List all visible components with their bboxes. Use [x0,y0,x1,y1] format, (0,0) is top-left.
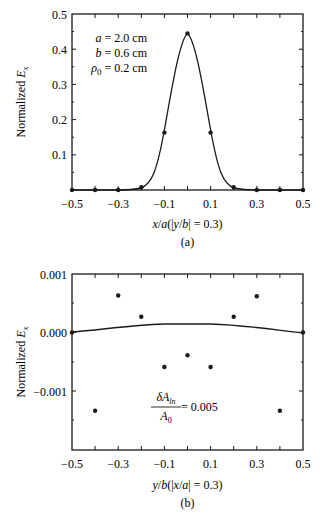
curve-b [72,324,303,333]
y-axis-title-a: Normalized Ex [14,67,30,138]
plot-frame-b [72,274,303,450]
y-tick-label: 0.4 [52,43,67,57]
x-tick-label: −0.3 [107,197,129,211]
x-tick-label: 0.1 [203,197,218,211]
svg-text:ρ0 = 0.2 cm: ρ0 = 0.2 cm [90,61,147,77]
x-tick-labels-a: −0.5 −0.3 −0.1 0.1 0.3 0.5 [61,197,310,211]
x-tick-label: −0.5 [61,197,83,211]
chart-a: 0.1 0.2 0.3 0.4 0.5 −0.5 −0.3 −0.1 0.1 0… [14,8,311,249]
parameter-annotation-a: a = 2.0 cm b = 0.6 cm ρ0 = 0.2 cm [90,31,147,77]
x-tick-label: −0.1 [154,197,176,211]
chart-b: 0.001 0.000 −0.001 −0.5 −0.3 −0.1 0.1 0.… [14,268,311,510]
y-tick-label: 0.1 [52,148,67,162]
y-tick-labels-a: 0.1 0.2 0.3 0.4 0.5 [52,8,67,162]
x-tick-label: −0.5 [61,457,83,471]
x-tick-label: 0.3 [249,457,264,471]
y-tick-label: 0.000 [40,326,67,340]
x-tick-label: 0.5 [296,197,311,211]
ratio-annotation-b: δAln A0 = 0.005 [151,390,218,425]
svg-text:a = 2.0 cm: a = 2.0 cm [96,31,148,45]
svg-text:= 0.005: = 0.005 [181,400,218,414]
x-axis-title-a: x/a(|y/b| = 0.3) [152,217,223,231]
x-tick-label: 0.5 [296,457,311,471]
x-tick-labels-b: −0.5 −0.3 −0.1 0.1 0.3 0.5 [61,457,310,471]
y-tick-label: 0.3 [52,78,67,92]
panel-label-b: (b) [181,496,195,510]
y-tick-label: −0.001 [33,385,67,399]
panel-label-a: (a) [181,235,194,249]
y-axis-title-b: Normalized Ex [14,327,30,398]
x-tick-label: −0.3 [107,457,129,471]
y-tick-labels-b: 0.001 0.000 −0.001 [33,268,67,399]
x-tick-label: 0.1 [203,457,218,471]
svg-text:δAln: δAln [156,390,175,406]
points-b [70,293,305,413]
y-tick-label: 0.001 [40,268,67,282]
y-tick-label: 0.5 [52,8,67,22]
x-ticks-b [95,274,280,450]
y-tick-label: 0.2 [52,113,67,127]
x-tick-label: 0.3 [249,197,264,211]
svg-text:b = 0.6 cm: b = 0.6 cm [96,46,148,60]
svg-text:A0: A0 [159,409,171,425]
x-axis-title-b: y/b(|x/a| = 0.3) [152,478,223,492]
figure: 0.1 0.2 0.3 0.4 0.5 −0.5 −0.3 −0.1 0.1 0… [0,0,320,521]
x-tick-label: −0.1 [154,457,176,471]
